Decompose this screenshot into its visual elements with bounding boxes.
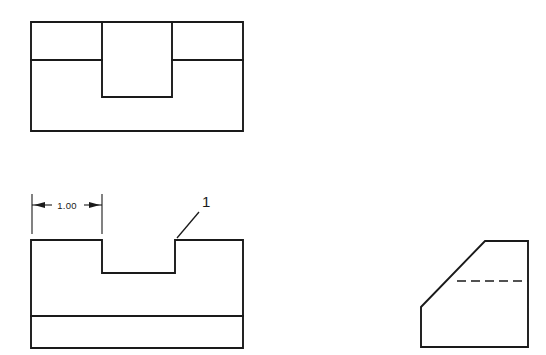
right-side-view-profile [421,241,528,347]
balloon-label-text: 1 [202,193,210,210]
front-view-profile [31,240,243,348]
top-view [31,22,243,131]
balloon-callout-1: 1 [177,193,210,238]
right-side-view [421,241,528,347]
front-view [31,240,243,348]
dimension-value-text: 1.00 [57,200,77,211]
dimension-1-00: 1.00 [32,194,102,234]
balloon-leader-line [177,212,199,238]
engineering-drawing-canvas: 1.00 1 [0,0,546,355]
drawing-sheet: 1.00 1 [0,0,546,355]
top-view-outline [31,22,243,131]
dimension-arrow-right [89,202,100,208]
top-view-slot-outline [102,22,172,97]
dimension-arrow-left [34,202,45,208]
